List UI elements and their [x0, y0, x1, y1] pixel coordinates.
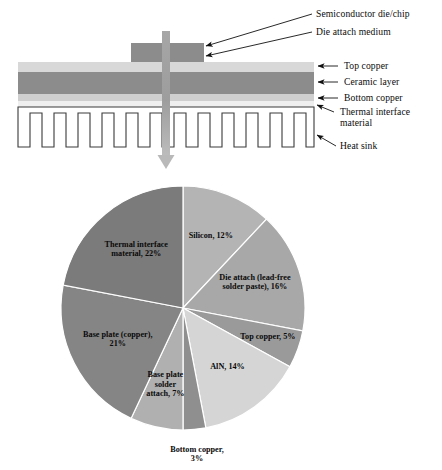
callout-label-die-attach-medium: Die attach medium [316, 26, 391, 37]
callout-label-heat-sink: Heat sink [340, 140, 377, 151]
callout-label-bottom-copper: Bottom copper [344, 92, 403, 103]
leader-die-attach-medium [206, 32, 312, 56]
pie-slice-label: Die attach (lead-freesolder paste), 16% [219, 273, 291, 291]
callout-label-semiconductor-die: Semiconductor die/chip [316, 8, 410, 19]
pie-slice-label: Top copper, 5% [240, 332, 295, 341]
pie-slice-label: Silicon, 12% [189, 231, 233, 240]
leader-heat-sink [317, 135, 336, 146]
callout-label-top-copper: Top copper [344, 60, 388, 71]
callout-label-ceramic-layer: Ceramic layer [344, 76, 399, 87]
pie-slice-label: Bottom copper,3% [170, 445, 223, 463]
thermal-stack-schematic: Semiconductor die/chip Die attach medium… [0, 0, 442, 180]
cost-breakdown-pie-chart: Silicon, 12%Die attach (lead-freesolder … [0, 172, 442, 470]
pie-chart-svg: Silicon, 12%Die attach (lead-freesolder … [0, 172, 442, 470]
pie-slice-label: AlN, 14% [210, 362, 245, 371]
pie-slice-label: Thermal interfacematerial, 22% [105, 240, 169, 258]
callout-label-thermal-interface-material: Thermal interface material [340, 106, 420, 128]
leader-semiconductor-die [206, 14, 312, 46]
leader-thermal-interface-material [317, 105, 334, 112]
